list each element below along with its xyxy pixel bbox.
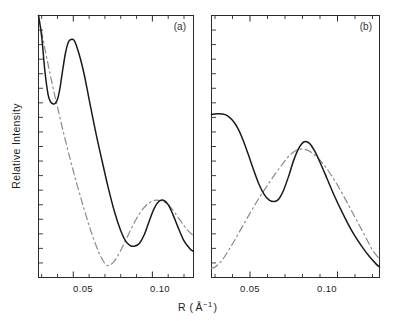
panel-b-frame — [212, 16, 380, 278]
figure-svg: (a) 0.05 0.10 (b) 0.05 0.10 R (Å−1) Rela… — [0, 0, 397, 321]
panel-a-xtick-label-1: 0.05 — [73, 283, 93, 294]
panel-b-ticks — [212, 16, 373, 278]
panel-b-solid-curve — [212, 114, 380, 267]
x-axis-title: R (Å−1) — [178, 300, 218, 313]
panel-b-xtick-label-1: 0.05 — [240, 283, 260, 294]
panel-a-dashed-curve — [39, 16, 194, 266]
panel-a-ticks — [39, 16, 185, 278]
panel-a-xtick-label-2: 0.10 — [150, 283, 170, 294]
x-axis-title-group: R (Å−1) — [178, 300, 218, 313]
panel-b-dashed-curve — [212, 149, 380, 268]
panel-b-label: (b) — [360, 21, 372, 32]
x-axis-title-close: ) — [214, 301, 218, 313]
x-axis-title-angstrom: Å — [196, 301, 204, 313]
figure-root: (a) 0.05 0.10 (b) 0.05 0.10 R (Å−1) Rela… — [0, 0, 397, 321]
panel-a-solid-curve — [39, 16, 194, 252]
panel-a-label: (a) — [174, 21, 186, 32]
panel-a: (a) 0.05 0.10 — [39, 16, 194, 295]
panel-b: (b) 0.05 0.10 — [212, 16, 380, 295]
x-axis-title-exponent: −1 — [203, 300, 213, 309]
panel-a-frame — [39, 16, 194, 278]
y-axis-title-group: Relative Intensity — [10, 103, 22, 189]
y-axis-title: Relative Intensity — [10, 103, 22, 189]
panel-b-xtick-label-2: 0.10 — [317, 283, 337, 294]
x-axis-title-r: R ( — [178, 301, 194, 313]
